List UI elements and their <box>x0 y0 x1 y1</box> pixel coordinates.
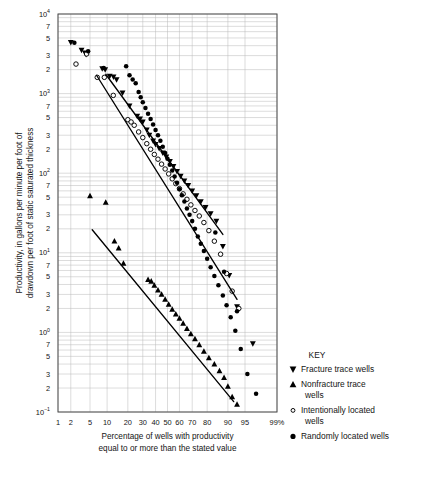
marker-filled-circle <box>216 283 221 288</box>
marker-filled-circle <box>156 133 161 138</box>
x-axis-title-line: equal to or more than the stated value <box>99 444 237 453</box>
x-axis-title-line: Percentage of wells with productivity <box>102 432 235 441</box>
marker-filled-circle <box>235 309 240 314</box>
marker-filled-circle <box>170 168 175 173</box>
marker-filled-circle <box>148 117 153 122</box>
y-minor-label: 7 <box>46 22 50 31</box>
marker-filled-circle <box>141 100 146 105</box>
x-tick-label: 50 <box>163 418 171 427</box>
marker-filled-circle <box>143 106 148 111</box>
marker-filled-circle <box>175 180 180 185</box>
marker-open-circle <box>156 157 161 162</box>
marker-open-circle <box>166 172 171 177</box>
legend-item[interactable]: Randomly located wells <box>290 431 389 441</box>
y-minor-label: 5 <box>46 272 50 281</box>
y-minor-label: 2 <box>46 65 50 74</box>
marker-filled-circle <box>212 274 217 279</box>
y-axis-title-line: Productivity, in gallons per minute per … <box>15 132 24 294</box>
y-minor-label: 7 <box>46 181 50 190</box>
marker-open-circle <box>74 62 79 67</box>
x-tick-label: 30 <box>139 418 147 427</box>
y-minor-label: 7 <box>46 102 50 111</box>
marker-open-circle <box>148 147 153 152</box>
marker-filled-circle <box>146 111 151 116</box>
x-tick-label: 90 <box>224 418 232 427</box>
x-tick-label: 1 <box>56 418 60 427</box>
marker-filled-circle <box>224 303 229 308</box>
legend-item-label: Fracture trace wells <box>301 364 374 374</box>
marker-filled-circle <box>136 90 141 95</box>
y-minor-label: 3 <box>46 51 50 60</box>
x-tick-label: 2 <box>69 418 73 427</box>
y-minor-label: 7 <box>46 340 50 349</box>
marker-open-circle <box>141 135 146 140</box>
marker-filled-circle <box>158 139 163 144</box>
marker-filled-circle <box>101 66 106 71</box>
marker-open-circle <box>218 252 223 257</box>
marker-open-circle <box>207 228 212 233</box>
marker-filled-circle <box>221 293 226 298</box>
x-tick-label: 95 <box>241 418 249 427</box>
marker-open-circle <box>152 152 157 157</box>
marker-filled-circle <box>205 257 210 262</box>
y-minor-label: 3 <box>46 290 50 299</box>
marker-open-circle <box>136 130 141 135</box>
marker-filled-circle <box>208 265 213 270</box>
y-minor-label: 5 <box>46 34 50 43</box>
marker-filled-circle <box>177 187 182 192</box>
productivity-probability-plot: 1251020304050607080909599% 1041031021011… <box>0 0 438 480</box>
marker-open-circle <box>197 214 202 219</box>
marker-filled-circle <box>187 213 192 218</box>
marker-filled-circle <box>185 206 190 211</box>
marker-open-circle <box>145 141 150 146</box>
marker-filled-circle <box>238 347 243 352</box>
y-minor-label: 2 <box>46 384 50 393</box>
marker-filled-circle <box>151 122 156 127</box>
marker-filled-circle <box>254 391 259 396</box>
marker-filled-circle <box>190 219 195 224</box>
legend-item-label: Intentionally located <box>301 405 375 415</box>
y-axis-title: Productivity, in gallons per minute per … <box>15 128 35 299</box>
y-axis-title-line: drawdown per foot of static saturated th… <box>26 128 35 299</box>
marker-open-circle <box>102 75 107 80</box>
marker-filled-circle <box>124 64 129 69</box>
marker-open-circle <box>212 239 217 244</box>
x-tick-label: 40 <box>151 418 159 427</box>
marker-filled-circle <box>222 269 227 274</box>
y-minor-label: 5 <box>46 113 50 122</box>
x-tick-label: 99% <box>270 418 285 427</box>
legend-item-label: Nonfracture trace <box>301 379 366 389</box>
y-minor-label: 5 <box>46 193 50 202</box>
marker-filled-circle <box>153 128 158 133</box>
y-minor-label: 2 <box>46 304 50 313</box>
y-minor-label: 3 <box>46 370 50 379</box>
marker-filled-circle <box>290 434 295 439</box>
marker-filled-circle <box>228 315 233 320</box>
marker-filled-circle <box>213 230 218 235</box>
y-minor-label: 2 <box>46 224 50 233</box>
marker-open-circle <box>193 208 198 213</box>
y-minor-label: 3 <box>46 131 50 140</box>
marker-filled-circle <box>233 328 238 333</box>
y-minor-label: 5 <box>46 352 50 361</box>
x-tick-label: 80 <box>203 418 211 427</box>
marker-filled-circle <box>172 174 177 179</box>
legend-title: KEY <box>309 350 326 360</box>
x-tick-label: 10 <box>103 418 111 427</box>
marker-filled-circle <box>86 49 91 54</box>
legend-item-label-cont: wells <box>304 416 324 426</box>
legend-item[interactable]: Fracture trace wells <box>290 364 374 374</box>
marker-filled-circle <box>72 41 77 46</box>
marker-filled-circle <box>133 81 138 86</box>
marker-filled-circle <box>180 193 185 198</box>
marker-open-circle <box>111 93 116 98</box>
x-tick-label: 70 <box>188 418 196 427</box>
marker-open-circle <box>291 408 295 412</box>
figure-container: 1251020304050607080909599% 1041031021011… <box>0 0 438 480</box>
marker-filled-circle <box>245 372 250 377</box>
marker-filled-circle <box>127 73 132 78</box>
marker-filled-circle <box>182 199 187 204</box>
y-minor-label: 2 <box>46 145 50 154</box>
legend-item-label-cont: wells <box>304 390 324 400</box>
y-minor-label: 3 <box>46 210 50 219</box>
